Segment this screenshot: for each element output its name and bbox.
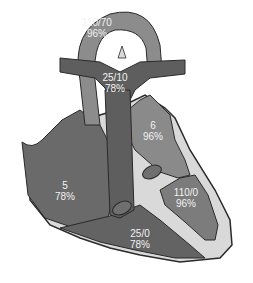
aorta-pressure: 110/70 <box>75 17 119 28</box>
pulmonary-artery-saturation: 78% <box>93 83 137 94</box>
left-atrium-pressure: 6 <box>131 120 175 131</box>
left-atrium-saturation: 96% <box>131 131 175 142</box>
right-ventricle-label: 25/0 78% <box>118 228 162 250</box>
left-atrium-label: 6 96% <box>131 120 175 142</box>
pulmonary-artery-pressure: 25/10 <box>93 72 137 83</box>
right-atrium-shape <box>22 110 112 230</box>
right-atrium-label: 5 78% <box>43 180 87 202</box>
right-atrium-pressure: 5 <box>43 180 87 191</box>
aorta-label: 110/70 96% <box>75 17 119 39</box>
left-ventricle-label: 110/0 96% <box>164 187 208 209</box>
right-ventricle-saturation: 78% <box>118 239 162 250</box>
right-atrium-saturation: 78% <box>43 191 87 202</box>
left-ventricle-saturation: 96% <box>164 198 208 209</box>
right-ventricle-pressure: 25/0 <box>118 228 162 239</box>
aorta-saturation: 96% <box>75 28 119 39</box>
vena-cava-shape <box>105 90 134 218</box>
pulmonary-artery-label: 25/10 78% <box>93 72 137 94</box>
aortic-valve <box>118 46 126 58</box>
left-ventricle-pressure: 110/0 <box>164 187 208 198</box>
